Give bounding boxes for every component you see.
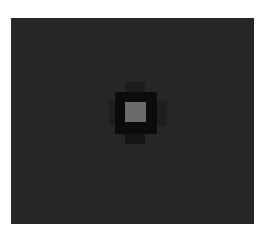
halo-right: [157, 100, 167, 126]
bright-square: [125, 102, 146, 122]
image-field: [11, 18, 254, 224]
